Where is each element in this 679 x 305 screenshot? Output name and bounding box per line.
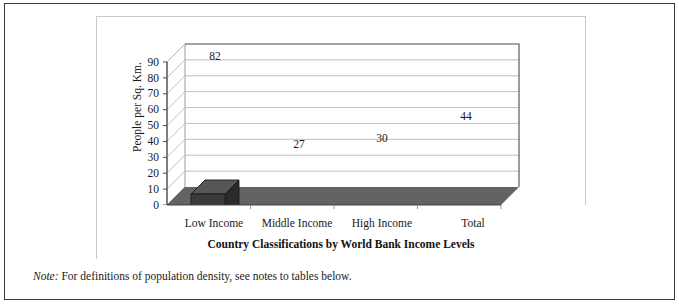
note-text: For definitions of population density, s… xyxy=(59,270,352,282)
y-tick-10: 10 xyxy=(133,184,159,195)
x-tick-total: Total xyxy=(427,217,519,229)
x-axis-title: Country Classifications by World Bank In… xyxy=(97,238,585,250)
chart-plot-area: 0 10 20 30 40 50 60 70 80 90 People per … xyxy=(97,17,585,258)
value-label-high-income: 30 xyxy=(360,132,404,144)
note-label: Note: xyxy=(33,270,59,282)
figure-frame: 0 10 20 30 40 50 60 70 80 90 People per … xyxy=(4,3,675,300)
value-label-middle-income: 27 xyxy=(277,138,321,150)
figure-note: Note: For definitions of population dens… xyxy=(33,270,352,282)
value-label-total: 44 xyxy=(444,110,488,122)
chart-left-wall xyxy=(167,44,185,205)
x-tick-high-income: High Income xyxy=(336,217,428,229)
x-tick-middle-income: Middle Income xyxy=(248,217,346,229)
below-axis-mask xyxy=(97,205,587,260)
x-tick-low-income: Low Income xyxy=(169,217,259,229)
chart-container: 0 10 20 30 40 50 60 70 80 90 People per … xyxy=(96,16,586,259)
y-axis-ticks xyxy=(163,62,167,205)
value-label-low-income: 82 xyxy=(193,50,237,62)
y-tick-0: 0 xyxy=(133,200,159,211)
y-axis-title: People per Sq. Km. xyxy=(131,37,143,177)
